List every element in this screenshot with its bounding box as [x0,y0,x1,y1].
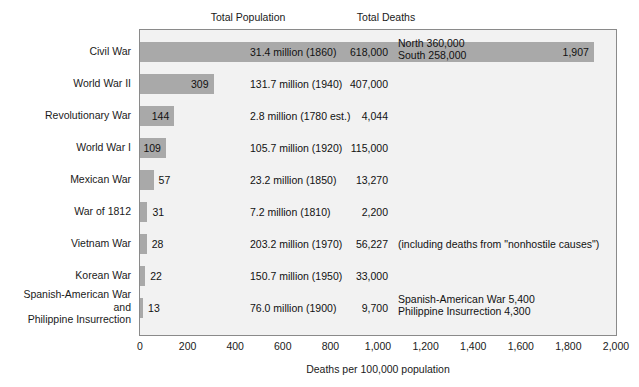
bar [140,202,147,222]
category-label: Korean War [0,269,131,282]
category-label-line: Philippine Insurrection [0,313,131,326]
cell-total-deaths: 4,044 [325,109,388,123]
cell-total-deaths: 13,270 [325,173,388,187]
bar-value-label: 309 [140,77,209,91]
x-axis-tick: 1,200 [412,340,438,353]
chart-row: 5723.2 million (1850)13,270 [140,164,616,196]
bar-value-label: 109 [140,141,161,155]
cell-note: North 360,000South 258,000 [398,38,466,61]
chart-row: 1376.0 million (1900)9,700Spanish-Americ… [140,292,616,324]
x-axis-tick: 1,600 [508,340,534,353]
x-axis-tick: 600 [274,340,292,353]
bar [140,234,147,254]
chart-row: 1442.8 million (1780 est.)4,044 [140,100,616,132]
chart-row: 22150.7 million (1950)33,000 [140,260,616,292]
category-label-line: and [0,301,131,314]
column-header-total-population: Total Population [188,11,308,23]
cell-total-population: 76.0 million (1900) [250,301,312,315]
category-label: War of 1812 [0,205,131,218]
chart-row: 109105.7 million (1920)115,000 [140,132,616,164]
cell-total-population: 131.7 million (1940) [250,77,312,91]
note-line: (including deaths from "nonhostile cause… [398,237,599,251]
category-label-line: Vietnam War [0,237,131,250]
category-label: World War II [0,77,131,90]
category-label: World War I [0,141,131,154]
category-label-line: World War II [0,77,131,90]
category-label-line: Spanish-American War [0,288,131,301]
x-axis-tick: 1,800 [555,340,581,353]
bar-value-label: 31 [152,205,164,219]
bar-value-label: 57 [159,173,171,187]
category-label: Mexican War [0,173,131,186]
bar-value-label: 13 [148,301,160,315]
category-label-line: World War I [0,141,131,154]
cell-total-population: 23.2 million (1850) [250,173,312,187]
x-axis-tick: 400 [226,340,244,353]
bar [140,298,143,318]
cell-total-population: 150.7 million (1950) [250,269,312,283]
category-label-line: Civil War [0,45,131,58]
x-axis-tick: 800 [322,340,340,353]
bar [140,266,145,286]
cell-total-deaths: 9,700 [325,301,388,315]
column-header-total-deaths: Total Deaths [330,11,442,23]
x-axis-tick: 2,000 [603,340,629,353]
note-line: Philippine Insurrection 4,300 [398,306,535,318]
note-line: Spanish-American War 5,400 [398,294,535,306]
plot-rows-container: 1,90731.4 million (1860)618,000North 360… [140,30,616,335]
plot-area: 1,90731.4 million (1860)618,000North 360… [139,29,617,336]
bar-value-label: 22 [150,269,162,283]
chart-row: 1,90731.4 million (1860)618,000North 360… [140,36,616,68]
cell-total-deaths: 618,000 [325,45,388,59]
chart-row: 28203.2 million (1970)56,227(including d… [140,228,616,260]
cell-total-population: 2.8 million (1780 est.) [250,109,312,123]
cell-note: (including deaths from "nonhostile cause… [398,237,599,251]
cell-note: Spanish-American War 5,400Philippine Ins… [398,294,535,317]
note-line: South 258,000 [398,50,466,62]
chart-row: 317.2 million (1810)2,200 [140,196,616,228]
x-axis-tick: 1,400 [460,340,486,353]
x-axis-title: Deaths per 100,000 population [139,363,617,376]
cell-total-population: 105.7 million (1920) [250,141,312,155]
bar [140,170,154,190]
chart-row: 309131.7 million (1940)407,000 [140,68,616,100]
cell-total-deaths: 56,227 [325,237,388,251]
war-casualties-chart: Total Population Total Deaths Civil WarW… [0,0,639,387]
x-axis-tick: 200 [179,340,197,353]
cell-total-deaths: 2,200 [325,205,388,219]
category-label: Spanish-American WarandPhilippine Insurr… [0,288,131,326]
cell-total-deaths: 407,000 [325,77,388,91]
cell-total-population: 203.2 million (1970) [250,237,312,251]
cell-total-deaths: 33,000 [325,269,388,283]
x-axis-tick: 1,000 [365,340,391,353]
cell-total-population: 31.4 million (1860) [250,45,312,59]
bar-value-label: 144 [140,109,169,123]
cell-total-population: 7.2 million (1810) [250,205,312,219]
category-label-line: War of 1812 [0,205,131,218]
x-axis-tick: 0 [137,340,143,353]
category-label: Vietnam War [0,237,131,250]
category-label: Civil War [0,45,131,58]
category-label-line: Mexican War [0,173,131,186]
category-label: Revolutionary War [0,109,131,122]
category-label-line: Korean War [0,269,131,282]
category-label-line: Revolutionary War [0,109,131,122]
x-axis-tick-labels: 02004006008001,0001,2001,4001,6001,8002,… [139,340,617,354]
cell-total-deaths: 115,000 [325,141,388,155]
bar-value-label: 28 [152,237,164,251]
note-line: North 360,000 [398,38,466,50]
